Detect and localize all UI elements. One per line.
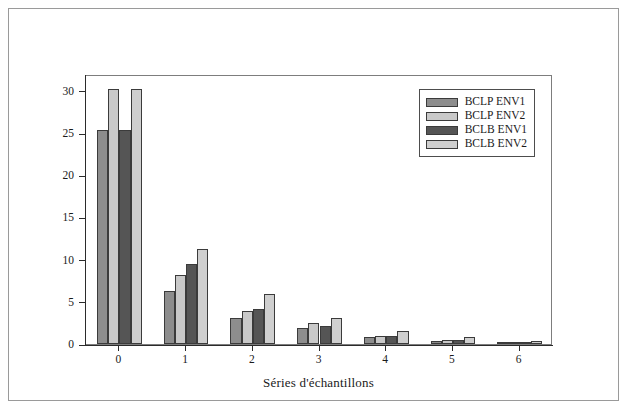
- legend-item-label: BCLB ENV1: [465, 124, 527, 136]
- bar: [375, 336, 386, 344]
- legend-item: BCLP ENV2: [426, 109, 527, 123]
- y-axis-tick-label: 25: [46, 127, 74, 140]
- bar: [253, 309, 264, 344]
- chart-legend: BCLP ENV1BCLP ENV2BCLB ENV1BCLB ENV2: [419, 89, 535, 157]
- legend-swatch-icon: [426, 140, 458, 149]
- y-axis-tick: [79, 134, 85, 135]
- legend-item-label: BCLP ENV1: [465, 96, 526, 108]
- y-axis-tick-label: 5: [46, 296, 74, 309]
- y-axis-tick: [79, 260, 85, 261]
- x-axis-tick: [185, 346, 186, 351]
- bar: [331, 318, 342, 344]
- bar: [520, 342, 531, 344]
- legend-swatch-icon: [426, 126, 458, 135]
- bar: [119, 130, 130, 344]
- y-axis-tick: [79, 91, 85, 92]
- bar: [397, 331, 408, 344]
- bar: [175, 275, 186, 344]
- legend-item: BCLB ENV2: [426, 137, 527, 151]
- bar: [464, 337, 475, 344]
- bar: [164, 291, 175, 344]
- x-axis-tick-label: 4: [370, 353, 400, 366]
- bar: [531, 341, 542, 344]
- legend-item-label: BCLP ENV2: [465, 110, 526, 122]
- legend-item: BCLP ENV1: [426, 95, 527, 109]
- bar: [108, 89, 119, 344]
- bar: [242, 311, 253, 344]
- x-axis-tick-label: 6: [504, 353, 534, 366]
- bar: [508, 342, 519, 344]
- bar: [453, 340, 464, 344]
- bar: [297, 328, 308, 344]
- x-axis-tick-label: 0: [103, 353, 133, 366]
- y-axis-line: [85, 75, 86, 346]
- bar: [131, 89, 142, 344]
- x-axis-tick: [252, 346, 253, 351]
- bar: [497, 342, 508, 344]
- x-axis-tick-label: 3: [304, 353, 334, 366]
- x-axis-tick-label: 5: [437, 353, 467, 366]
- bar: [97, 130, 108, 344]
- y-axis-tick-label: 0: [46, 338, 74, 351]
- bar: [386, 336, 397, 344]
- legend-item-label: BCLB ENV2: [465, 138, 527, 150]
- y-axis-tick-label: 20: [46, 169, 74, 182]
- y-axis-tick: [79, 302, 85, 303]
- y-axis-tick-label: 10: [46, 254, 74, 267]
- y-axis-tick: [79, 218, 85, 219]
- bar: [431, 341, 442, 344]
- y-axis-tick-label: 15: [46, 211, 74, 224]
- x-axis-tick: [385, 346, 386, 351]
- legend-item: BCLB ENV1: [426, 123, 527, 137]
- x-axis-tick-label: 1: [170, 353, 200, 366]
- legend-swatch-icon: [426, 98, 458, 107]
- y-axis-tick-label: 30: [46, 85, 74, 98]
- x-axis-tick: [519, 346, 520, 351]
- bar: [264, 294, 275, 344]
- x-axis-tick: [452, 346, 453, 351]
- y-axis-tick: [79, 345, 85, 346]
- y-axis-tick: [79, 176, 85, 177]
- bar: [197, 249, 208, 344]
- bar: [442, 340, 453, 344]
- bar: [230, 318, 241, 344]
- x-axis-tick: [319, 346, 320, 351]
- x-axis-tick-label: 2: [237, 353, 267, 366]
- x-axis-tick: [118, 346, 119, 351]
- bar: [308, 323, 319, 344]
- bar: [364, 337, 375, 344]
- bar: [320, 326, 331, 344]
- legend-swatch-icon: [426, 112, 458, 121]
- bar: [186, 264, 197, 344]
- x-axis-title: Séries d'échantillons: [85, 375, 552, 391]
- chart-plot-frame: BCLP ENV1BCLP ENV2BCLB ENV1BCLB ENV2: [85, 75, 552, 345]
